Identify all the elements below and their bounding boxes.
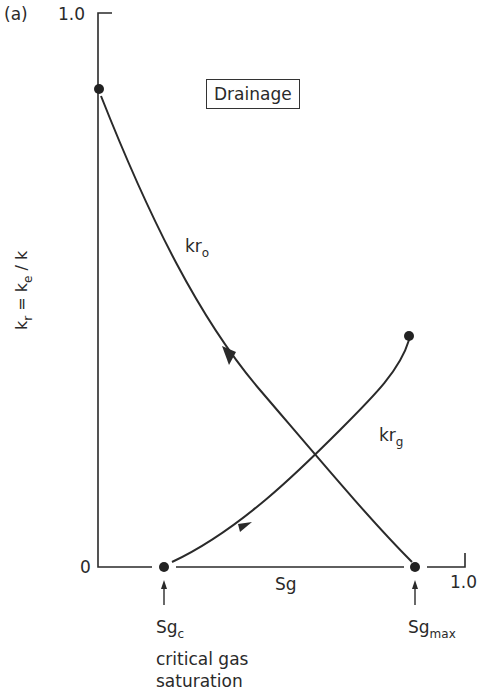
- drainage-label: Drainage: [206, 79, 300, 109]
- sgc-label: Sgc: [156, 619, 184, 636]
- origin-label: 0: [80, 559, 91, 576]
- sgc-dot: [159, 562, 169, 572]
- sgc-description-line2: saturation: [156, 673, 243, 690]
- kro-curve: [101, 96, 412, 562]
- x-axis-end: [427, 553, 465, 567]
- krg-end-dot: [404, 331, 414, 341]
- krg-label: krg: [379, 427, 403, 444]
- sgc-pointer-icon: [161, 580, 167, 605]
- sgmax-label: Sgmax: [408, 619, 456, 636]
- panel-label: (a): [4, 6, 28, 23]
- krg-curve: [172, 340, 409, 562]
- x-axis-end-tick: 1.0: [450, 574, 477, 591]
- krg-arrow-icon: [238, 522, 252, 532]
- y-axis-top-tick: 1.0: [58, 6, 85, 23]
- sgmax-dot: [410, 562, 420, 572]
- sgc-description-line1: critical gas: [156, 651, 248, 668]
- y-axis: [98, 13, 152, 567]
- x-axis-label: Sg: [275, 576, 297, 593]
- y-axis-label: kr = ke / k: [12, 251, 31, 330]
- kro-start-dot: [94, 84, 104, 94]
- kro-label: kro: [185, 238, 209, 255]
- sgmax-pointer-icon: [412, 580, 418, 605]
